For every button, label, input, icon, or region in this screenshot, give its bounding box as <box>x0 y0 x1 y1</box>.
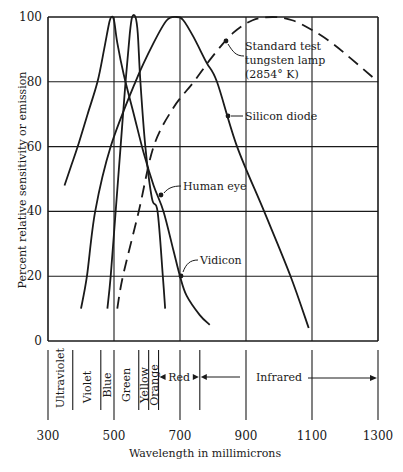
band-label-ultraviolet: Ultraviolet <box>54 348 67 408</box>
band-label-red: Red <box>168 371 190 384</box>
band-label-infrared: Infrared <box>256 371 302 384</box>
x-axis-label: Wavelength in millimicrons <box>129 447 281 460</box>
band-label-blue: Blue <box>101 372 114 397</box>
annotation-label: Standard test <box>245 40 322 53</box>
y-tick-label: 20 <box>27 269 42 283</box>
curve-human <box>107 15 165 309</box>
y-tick-label: 60 <box>27 140 42 154</box>
tungsten-pointer-icon <box>228 44 244 56</box>
vidicon-pointer-icon-tip <box>179 274 184 279</box>
band-label-orange: Orange <box>148 364 161 405</box>
annotation-label: (2854° K) <box>245 68 299 81</box>
y-axis-label: Percent relative sensitivity or emission <box>16 72 29 289</box>
grid <box>48 17 378 341</box>
annotation-label: Human eye <box>183 180 246 193</box>
silicon-pointer-icon-tip <box>226 114 231 119</box>
tungsten-pointer-icon-tip <box>224 39 229 44</box>
band-label-green: Green <box>120 368 133 402</box>
y-tick-label: 80 <box>27 75 42 89</box>
curves <box>65 15 379 328</box>
annotation-label: Vidicon <box>199 254 242 267</box>
x-tick-label: 700 <box>169 429 192 443</box>
vidicon-pointer-icon <box>183 260 198 272</box>
human-eye-pointer-icon <box>164 186 181 193</box>
y-tick-label: 40 <box>27 204 42 218</box>
y-tick-label: 100 <box>19 10 42 24</box>
annotation-label: tungsten lamp <box>245 54 325 67</box>
spectrum-bands: UltravioletVioletBlueGreenYellowOrangeRe… <box>54 348 377 410</box>
x-tick-label: 900 <box>235 429 258 443</box>
x-tick-label: 500 <box>103 429 126 443</box>
human-eye-pointer-icon-tip <box>159 193 164 198</box>
x-tick-label: 1300 <box>363 429 394 443</box>
arrow-right-icon <box>370 375 377 381</box>
x-tick-label: 300 <box>37 429 60 443</box>
annotation-label: Silicon diode <box>245 110 317 123</box>
y-tick-label: 0 <box>34 334 42 348</box>
band-label-violet: Violet <box>81 370 94 404</box>
x-tick-label: 1100 <box>297 429 328 443</box>
arrow-right-icon <box>193 374 199 380</box>
spectral-sensitivity-chart: 020406080100 30050070090011001300 Ultrav… <box>0 0 403 472</box>
